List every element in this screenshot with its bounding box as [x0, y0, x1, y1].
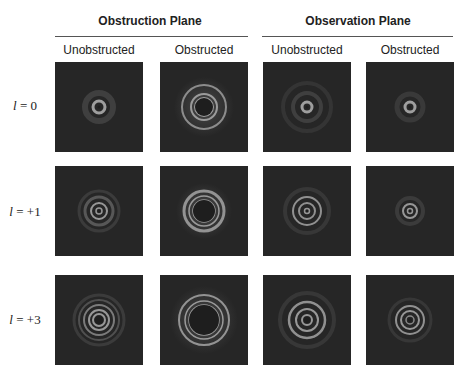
intensity-panel-l0-observation-unobstructed [263, 62, 351, 152]
column-label-observation-unobstructed: Unobstructed [262, 43, 352, 57]
intensity-panel-l1-observation-obstructed [366, 166, 454, 256]
row-label-l0: l = 0 [0, 98, 50, 114]
group-divider-obstruction [55, 36, 248, 37]
intensity-panel-l1-observation-unobstructed [263, 166, 351, 256]
group-title-observation-plane: Observation Plane [260, 14, 456, 28]
row-label-l3: l = +3 [0, 312, 50, 328]
intensity-panel-l1-obstruction-unobstructed [55, 166, 143, 256]
intensity-panel-l3-obstruction-unobstructed [55, 275, 143, 365]
group-title-obstruction-plane: Obstruction Plane [50, 14, 250, 28]
intensity-panel-l3-obstruction-obstructed [160, 275, 248, 365]
column-label-obstruction-unobstructed: Unobstructed [54, 43, 144, 57]
intensity-panel-l0-obstruction-obstructed [160, 62, 248, 152]
intensity-panel-l1-obstruction-obstructed [160, 166, 248, 256]
intensity-panel-l3-observation-obstructed [366, 275, 454, 365]
group-divider-observation [262, 36, 453, 37]
row-label-l1: l = +1 [0, 204, 50, 220]
intensity-panel-l3-observation-unobstructed [263, 275, 351, 365]
intensity-panel-l0-obstruction-unobstructed [55, 62, 143, 152]
column-label-obstruction-obstructed: Obstructed [159, 43, 249, 57]
intensity-panel-l0-observation-obstructed [366, 62, 454, 152]
column-label-observation-obstructed: Obstructed [365, 43, 455, 57]
